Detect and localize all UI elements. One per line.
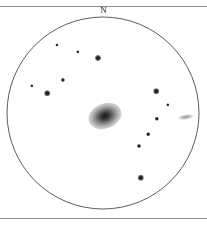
field-of-view-circle: [7, 17, 199, 209]
finder-chart: N: [0, 0, 207, 226]
field-of-view-svg: [0, 0, 207, 226]
